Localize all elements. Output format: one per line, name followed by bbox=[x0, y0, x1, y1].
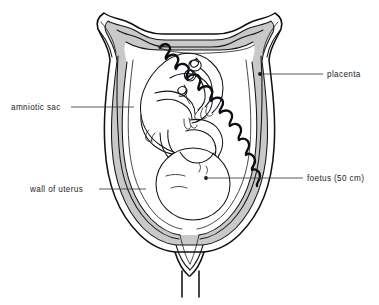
foetal-head bbox=[156, 148, 230, 220]
label-foetus-text: foetus (50 cm) bbox=[307, 174, 364, 183]
label-placenta-text: placenta bbox=[327, 70, 361, 79]
label-wall-of-uterus-text: wall of uterus bbox=[29, 185, 83, 194]
label-placenta: placenta bbox=[258, 70, 361, 79]
label-amniotic-sac-text: amniotic sac bbox=[11, 103, 61, 112]
foetus-in-uterus-diagram: placenta amniotic sac foetus (50 cm) wal… bbox=[0, 0, 379, 305]
diagram-canvas: placenta amniotic sac foetus (50 cm) wal… bbox=[0, 0, 379, 305]
placenta-anchor-dot bbox=[258, 72, 262, 76]
foetus-anchor-dot bbox=[204, 176, 208, 180]
